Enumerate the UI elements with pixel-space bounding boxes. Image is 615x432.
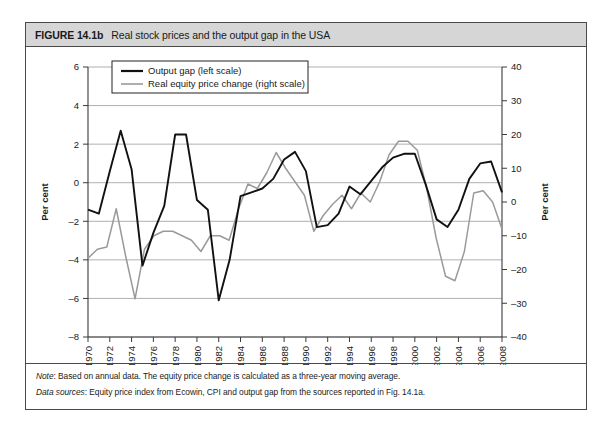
- y-axis-left-title: Per cent: [39, 182, 50, 220]
- sources-line: Data sources: Equity price index from Ec…: [36, 387, 576, 398]
- svg-text:Real equity price change (righ: Real equity price change (right scale): [148, 78, 305, 89]
- x-axis-ticks: 1970197219741976197819801982198419861988…: [83, 337, 508, 365]
- sources-text: : Equity price index from Ecowin, CPI an…: [85, 387, 425, 397]
- svg-text:20: 20: [511, 129, 522, 140]
- svg-text:10: 10: [511, 163, 522, 174]
- svg-text:6: 6: [74, 61, 79, 72]
- svg-text:–40: –40: [511, 331, 527, 342]
- svg-text:–2: –2: [68, 216, 79, 227]
- figure-number: FIGURE 14.1b: [35, 29, 103, 41]
- y-axis-right-title: Per cent: [539, 182, 550, 220]
- y-axis-right-ticks: 403020100–10–20–30–40: [502, 61, 527, 342]
- line-chart: 6420–2–4–6–8 403020100–10–20–30–40 19701…: [26, 47, 586, 365]
- svg-text:2: 2: [74, 139, 79, 150]
- svg-text:–30: –30: [511, 298, 527, 309]
- svg-text:30: 30: [511, 95, 522, 106]
- svg-text:0: 0: [511, 196, 516, 207]
- gridlines: [88, 67, 502, 337]
- svg-text:–6: –6: [68, 293, 79, 304]
- y-axis-left-ticks: 6420–2–4–6–8: [68, 61, 88, 342]
- sources-label: Data sources: [36, 387, 85, 397]
- figure-notes: Note: Based on annual data. The equity p…: [26, 363, 586, 409]
- chart-area: 6420–2–4–6–8 403020100–10–20–30–40 19701…: [26, 47, 586, 365]
- svg-text:–20: –20: [511, 264, 527, 275]
- note-line: Note: Based on annual data. The equity p…: [36, 371, 576, 382]
- note-text: : Based on annual data. The equity price…: [54, 371, 401, 381]
- figure-title-bar: FIGURE 14.1b Real stock prices and the o…: [26, 23, 586, 47]
- svg-text:0: 0: [74, 177, 79, 188]
- series-output-gap: [88, 131, 502, 301]
- svg-text:–4: –4: [68, 254, 79, 265]
- series-real-equity-price-change: [88, 141, 502, 299]
- svg-text:–8: –8: [68, 331, 79, 342]
- chart-legend: Output gap (left scale)Real equity price…: [112, 61, 308, 93]
- svg-text:Output gap (left scale): Output gap (left scale): [148, 65, 241, 76]
- figure-title: Real stock prices and the output gap in …: [111, 29, 330, 41]
- svg-text:4: 4: [74, 100, 79, 111]
- note-label: Note: [36, 371, 54, 381]
- svg-text:40: 40: [511, 61, 522, 72]
- figure-container: FIGURE 14.1b Real stock prices and the o…: [25, 22, 587, 410]
- svg-text:–10: –10: [511, 230, 527, 241]
